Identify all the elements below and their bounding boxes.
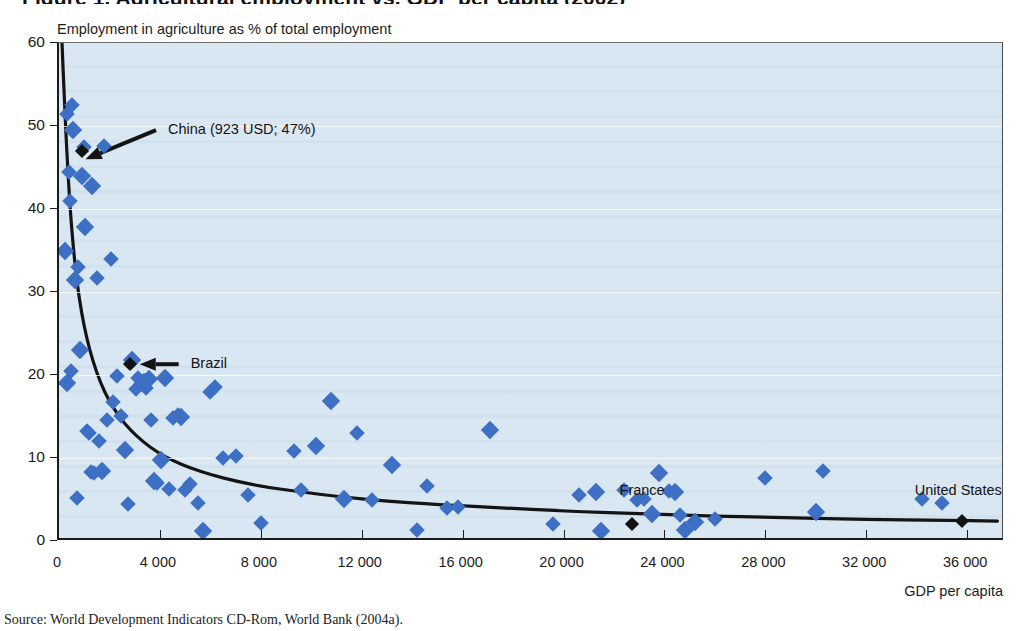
x-axis-tick-label: 36 000	[943, 554, 987, 570]
paper-texture	[59, 43, 1002, 538]
y-axis-tick	[50, 208, 57, 209]
x-axis-tick	[564, 530, 565, 538]
x-axis-tick	[362, 530, 363, 538]
y-axis-tick	[50, 374, 57, 375]
y-axis-tick	[50, 42, 57, 43]
data-point	[571, 488, 587, 504]
annotation-arrow-shaft-china	[100, 130, 156, 153]
data-point	[546, 516, 562, 532]
data-point	[349, 425, 365, 441]
data-point	[707, 511, 723, 527]
data-point	[105, 394, 121, 410]
data-point	[215, 450, 231, 466]
y-axis-tick	[50, 125, 57, 126]
data-point	[364, 492, 380, 508]
data-point	[228, 449, 244, 465]
x-axis-tick	[664, 530, 665, 538]
gridline	[59, 292, 1002, 293]
annotation-arrow-head-brazil	[140, 358, 156, 371]
x-axis-tick-label: 8 000	[241, 554, 277, 570]
data-point	[650, 464, 668, 482]
gridline	[59, 375, 1002, 376]
figure-title: Figure 1. Agricultural employment vs. GD…	[22, 0, 1022, 4]
y-axis-tick-label: 0	[5, 531, 45, 549]
data-point	[253, 515, 269, 531]
y-axis-caption: Employment in agriculture as % of total …	[57, 21, 391, 37]
data-point	[103, 251, 119, 267]
data-point	[592, 522, 610, 540]
data-point	[156, 369, 174, 387]
annotation-label-brazil: Brazil	[191, 355, 227, 371]
x-axis-tick-label: 4 000	[140, 554, 176, 570]
data-point	[121, 497, 137, 513]
annotation-label-china: China (923 USD; 47%)	[168, 121, 316, 137]
data-point	[58, 374, 76, 392]
data-point	[420, 478, 436, 494]
data-point	[409, 522, 425, 538]
data-point	[587, 483, 605, 501]
data-point	[70, 341, 88, 359]
data-point	[286, 444, 302, 460]
data-point	[62, 193, 78, 209]
x-axis-tick	[765, 530, 766, 538]
x-axis-tick-label: 28 000	[741, 554, 785, 570]
x-axis-tick-label: 16 000	[438, 554, 482, 570]
gridline	[59, 209, 1002, 210]
annotation-label-france: France	[620, 482, 665, 498]
x-axis-tick-label: 20 000	[539, 554, 583, 570]
x-axis-caption: GDP per capita	[904, 583, 1003, 599]
data-point	[816, 463, 832, 479]
highlighted-data-point-united-states	[955, 514, 969, 528]
y-axis-tick-label: 10	[5, 448, 45, 466]
data-point	[143, 412, 159, 428]
trend-curve	[62, 43, 997, 521]
data-point	[643, 504, 661, 522]
x-axis-tick	[261, 530, 262, 538]
y-axis-tick-label: 30	[5, 282, 45, 300]
x-axis-tick-label: 32 000	[842, 554, 886, 570]
y-axis-tick	[50, 457, 57, 458]
data-point	[307, 436, 325, 454]
data-point	[293, 482, 309, 498]
data-point	[109, 368, 125, 384]
data-point	[450, 499, 466, 515]
data-point	[758, 470, 774, 486]
y-axis-tick	[50, 540, 57, 541]
data-point	[92, 434, 108, 450]
data-point	[69, 490, 85, 506]
data-point	[115, 440, 133, 458]
data-point	[240, 487, 256, 503]
source-note: Source: World Development Indicators CD-…	[4, 612, 403, 628]
x-axis-tick-label: 24 000	[640, 554, 684, 570]
y-axis-tick-label: 20	[5, 365, 45, 383]
data-point	[481, 421, 499, 439]
x-axis-tick-label: 12 000	[338, 554, 382, 570]
data-point	[76, 218, 94, 236]
data-point	[97, 138, 113, 154]
x-axis-tick	[967, 530, 968, 538]
data-point	[89, 270, 105, 286]
data-point	[807, 503, 825, 521]
y-axis-tick-label: 40	[5, 199, 45, 217]
y-axis-tick-label: 60	[5, 33, 45, 51]
data-point	[99, 412, 115, 428]
data-point	[57, 241, 74, 259]
data-point	[152, 451, 170, 469]
data-point	[190, 495, 206, 511]
x-axis-tick	[866, 530, 867, 538]
annotation-label-united-states: United States	[915, 482, 1002, 498]
x-axis-tick	[463, 530, 464, 538]
plot-area	[57, 42, 1003, 540]
y-axis-tick	[50, 291, 57, 292]
x-axis-tick	[160, 530, 161, 538]
highlighted-data-point-france	[625, 517, 639, 531]
figure-root: Figure 1. Agricultural employment vs. GD…	[0, 0, 1033, 631]
y-axis-tick-label: 50	[5, 116, 45, 134]
x-axis-tick-label: 0	[53, 554, 61, 570]
data-point	[64, 121, 82, 139]
data-point	[113, 408, 129, 424]
data-point	[65, 270, 83, 288]
data-point	[194, 522, 212, 540]
data-point	[322, 392, 340, 410]
gridline	[59, 458, 1002, 459]
